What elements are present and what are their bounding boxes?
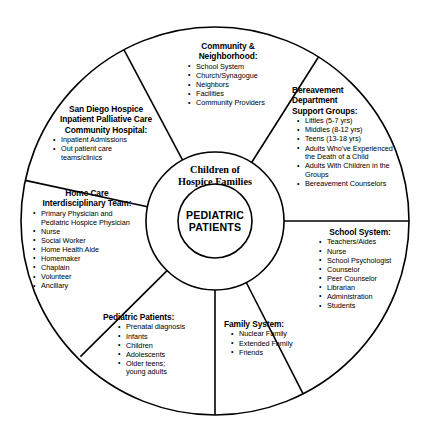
sector-school-system: School System: Teachers/Aides Nurse Scho… [300, 227, 420, 311]
sector-home-care-team: Home Care Interdisciplinary Team: Primar… [20, 188, 154, 291]
sector-bereavement-department: Bereavement Department Support Groups: L… [292, 85, 420, 189]
list-item: Community Providers [187, 99, 289, 108]
wheel-diagram: Community & Neighborhood: School System … [0, 0, 425, 438]
sector-pediatric-patients: Pediatric Patients: Prenatal diagnosis I… [103, 312, 221, 378]
sector-school-title: School System: [300, 227, 420, 237]
list-item: Friends [230, 349, 324, 358]
sector-bereavement-list: Littles (5-7 yrs) Middles (8-12 yrs) Tee… [296, 117, 420, 189]
sector-hospice-list: Inpatient Admissions Out patient care te… [52, 136, 170, 163]
sector-family-title: Family System: [224, 319, 324, 329]
sector-hospice-title: San Diego Hospice Inpatient Palliative C… [42, 104, 170, 135]
sector-san-diego-hospice: San Diego Hospice Inpatient Palliative C… [42, 104, 170, 163]
sector-community-title: Community & Neighborhood: [167, 41, 289, 62]
list-item: Bereavement Counselors [296, 180, 420, 189]
sector-bereavement-title: Bereavement Department Support Groups: [292, 85, 420, 116]
inner-circle-label: PEDIATRIC PATIENTS [163, 209, 267, 234]
sector-family-system: Family System: Nuclear Family Extended F… [224, 319, 324, 358]
list-item: Older teens; young adults [117, 360, 221, 377]
sector-homecare-list: Primary Physician and Pediatric Hospice … [32, 210, 154, 291]
sector-pediatric-title: Pediatric Patients: [103, 312, 221, 322]
list-item: Primary Physician and Pediatric Hospice … [32, 210, 154, 227]
sector-homecare-title: Home Care Interdisciplinary Team: [20, 188, 154, 209]
list-item: Students [318, 302, 420, 311]
middle-ring-label: Children of Hospice Families [147, 164, 283, 187]
sector-community-neighborhood: Community & Neighborhood: School System … [167, 41, 289, 108]
list-item: Ancillary [32, 282, 154, 291]
list-item: Out patient care teams/clinics [52, 145, 170, 162]
sector-school-list: Teachers/Aides Nurse School Psychologist… [318, 238, 420, 310]
list-item: Adults With Children in the Groups [296, 162, 420, 179]
sector-community-list: School System Church/Synagogue Neighbors… [187, 63, 289, 108]
list-item: Adults Who've Experienced the Death of a… [296, 145, 420, 162]
sector-family-list: Nuclear Family Extended Family Friends [230, 330, 324, 357]
sector-pediatric-list: Prenatal diagnosis Infants Children Adol… [117, 323, 221, 377]
